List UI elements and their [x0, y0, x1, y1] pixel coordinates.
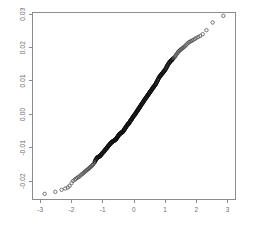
scatter-point: [211, 21, 214, 24]
x-axis-tick-labels: -3-2-10123: [37, 206, 230, 213]
plot-frame-group: [33, 13, 236, 200]
scatter-point: [222, 14, 225, 17]
x-tick-label: -1: [100, 206, 106, 213]
x-tick-label: 1: [163, 206, 167, 213]
y-tick-label: -0.02: [19, 173, 26, 189]
x-tick-label: 0: [132, 206, 136, 213]
scatter-point: [54, 190, 57, 193]
x-tick-label: 2: [195, 206, 199, 213]
y-tick-label: 0.02: [19, 41, 26, 54]
scatter-points-group: [43, 14, 225, 195]
x-tick-label: 3: [226, 206, 230, 213]
qq-plot-figure: -3-2-10123 -0.02-0.010.000.010.020.03: [0, 0, 253, 233]
qq-plot-canvas: -3-2-10123 -0.02-0.010.000.010.020.03: [0, 0, 253, 233]
x-tick-label: -3: [37, 206, 43, 213]
scatter-point: [205, 29, 208, 32]
y-tick-label: -0.01: [19, 140, 26, 156]
plot-frame: [33, 13, 236, 200]
y-axis-tick-labels: -0.02-0.010.000.010.020.03: [19, 7, 26, 189]
y-tick-label: 0.00: [19, 107, 26, 120]
scatter-point: [60, 188, 63, 191]
scatter-point: [43, 192, 46, 195]
y-tick-label: 0.03: [19, 7, 26, 20]
x-axis-ticks: [40, 200, 227, 204]
x-tick-label: -2: [68, 206, 74, 213]
scatter-point: [201, 33, 204, 36]
y-tick-label: 0.01: [19, 74, 26, 87]
y-axis-ticks: [29, 14, 33, 181]
